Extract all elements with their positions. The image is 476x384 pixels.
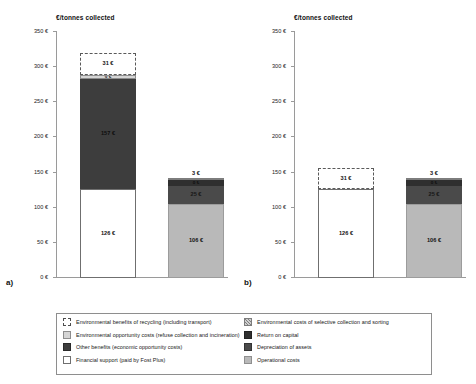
segment-deprec: 25 € <box>168 186 224 204</box>
y-tick-300: 300 € <box>53 66 57 67</box>
y-tick-label-250: 250 € <box>272 98 286 104</box>
legend-column-right: Environmental costs of selective collect… <box>244 318 425 374</box>
y-tick-label-200: 200 € <box>272 133 286 139</box>
y-tick-0: 0 € <box>291 277 295 278</box>
segment-deprec: 25 € <box>406 186 462 204</box>
segment-value-label: 106 € <box>189 238 203 244</box>
segment-retcap: 8 € <box>168 180 224 186</box>
segment-support: 126 € <box>80 189 136 278</box>
legend-column-left: Environmental benefits of recycling (inc… <box>63 318 244 374</box>
segment-value-label: 106 € <box>427 238 441 244</box>
y-tick-150: 150 € <box>291 172 295 173</box>
segment-value-label: 157 € <box>101 131 115 137</box>
legend-item-envben[interactable]: Environmental benefits of recycling (inc… <box>63 318 244 326</box>
segment-value-label: 31 € <box>341 176 352 182</box>
legend-swatch-icon-otherben <box>63 343 71 351</box>
legend-swatch-icon-deprec <box>244 343 252 351</box>
panel-a: €/tonnes collected 350 €300 €250 €200 €1… <box>0 0 238 308</box>
y-tick-50: 50 € <box>53 242 57 243</box>
y-tick-50: 50 € <box>291 242 295 243</box>
segment-value-label: 31 € <box>103 61 114 67</box>
panel-b: €/tonnes collected 350 €300 €250 €200 €1… <box>238 0 476 308</box>
y-tick-label-150: 150 € <box>34 169 48 175</box>
y-tick-250: 250 € <box>53 101 57 102</box>
y-tick-label-350: 350 € <box>272 28 286 34</box>
legend-item-label: Environmental opportunity costs (refuse … <box>76 332 240 338</box>
legend-swatch-icon-support <box>63 356 71 364</box>
y-tick-0: 0 € <box>53 277 57 278</box>
segment-value-label: 25 € <box>191 192 202 198</box>
legend-item-deprec[interactable]: Depreciation of assets <box>244 343 425 351</box>
legend-item-label: Operational costs <box>257 357 300 363</box>
legend-swatch-icon-envopp <box>63 331 71 339</box>
y-axis-title-b: €/tonnes collected <box>294 14 353 21</box>
legend-item-label: Environmental costs of selective collect… <box>257 319 389 325</box>
segment-value-label: 25 € <box>429 192 440 198</box>
legend-item-label: Depreciation of assets <box>257 344 311 350</box>
plot-area-b: 350 €300 €250 €200 €150 €100 €50 €0 € 12… <box>294 32 460 278</box>
segment-value-label: 126 € <box>339 231 353 237</box>
panel-a-tag: a) <box>6 278 13 287</box>
legend-item-opcost[interactable]: Operational costs <box>244 356 425 364</box>
chart-page: €/tonnes collected 350 €300 €250 €200 €1… <box>0 0 476 384</box>
segment-value-label: 8 € <box>431 181 437 186</box>
segment-value-label: 8 € <box>193 181 199 186</box>
segment-envben: 31 € <box>80 53 136 75</box>
legend-item-retcap[interactable]: Return on capital <box>244 331 425 339</box>
y-tick-100: 100 € <box>291 207 295 208</box>
y-tick-250: 250 € <box>291 101 295 102</box>
legend-swatch-icon-envcost <box>244 318 252 326</box>
legend-item-label: Other benefits (economic opportunity cos… <box>76 344 182 350</box>
legend-item-label: Financial support (paid by Fost Plus) <box>76 357 165 363</box>
legend-swatch-icon-retcap <box>244 331 252 339</box>
y-tick-350: 350 € <box>53 31 57 32</box>
y-tick-label-200: 200 € <box>34 133 48 139</box>
segment-support: 126 € <box>318 189 374 278</box>
y-tick-150: 150 € <box>53 172 57 173</box>
segment-opcost: 106 € <box>168 204 224 279</box>
y-tick-label-100: 100 € <box>34 204 48 210</box>
y-tick-label-50: 50 € <box>275 239 286 245</box>
y-tick-label-0: 0 € <box>278 274 286 280</box>
y-tick-label-250: 250 € <box>34 98 48 104</box>
legend-item-label: Environmental benefits of recycling (inc… <box>76 319 212 325</box>
y-tick-label-50: 50 € <box>37 239 48 245</box>
segment-envcost <box>406 178 462 180</box>
y-tick-300: 300 € <box>291 66 295 67</box>
y-tick-100: 100 € <box>53 207 57 208</box>
segment-value-label-outside: 3 € <box>406 171 462 177</box>
y-tick-label-150: 150 € <box>272 169 286 175</box>
y-tick-label-100: 100 € <box>272 204 286 210</box>
segment-value-label-outside: 3 € <box>168 171 224 177</box>
chart-legend: Environmental benefits of recycling (inc… <box>56 313 432 375</box>
legend-swatch-icon-envben <box>63 318 71 326</box>
segment-envopp: 6 € <box>80 75 136 79</box>
plot-area-a: 350 €300 €250 €200 €150 €100 €50 €0 € 12… <box>56 32 222 278</box>
y-tick-label-300: 300 € <box>272 63 286 69</box>
y-tick-label-0: 0 € <box>40 274 48 280</box>
legend-item-label: Return on capital <box>257 332 299 338</box>
panel-b-tag: b) <box>244 278 252 287</box>
segment-otherben: 157 € <box>80 79 136 189</box>
segment-value-label: 126 € <box>101 231 115 237</box>
legend-item-otherben[interactable]: Other benefits (economic opportunity cos… <box>63 343 244 351</box>
y-tick-200: 200 € <box>53 136 57 137</box>
legend-swatch-icon-opcost <box>244 356 252 364</box>
segment-value-label: 6 € <box>105 75 111 79</box>
y-tick-label-300: 300 € <box>34 63 48 69</box>
segment-envben: 31 € <box>318 168 374 190</box>
legend-item-envopp[interactable]: Environmental opportunity costs (refuse … <box>63 331 244 339</box>
segment-retcap: 8 € <box>406 180 462 186</box>
y-tick-200: 200 € <box>291 136 295 137</box>
legend-item-support[interactable]: Financial support (paid by Fost Plus) <box>63 356 244 364</box>
y-tick-350: 350 € <box>291 31 295 32</box>
y-axis-title-a: €/tonnes collected <box>56 14 115 21</box>
legend-item-envcost[interactable]: Environmental costs of selective collect… <box>244 318 425 326</box>
y-tick-label-350: 350 € <box>34 28 48 34</box>
segment-opcost: 106 € <box>406 204 462 279</box>
segment-envcost <box>168 178 224 180</box>
